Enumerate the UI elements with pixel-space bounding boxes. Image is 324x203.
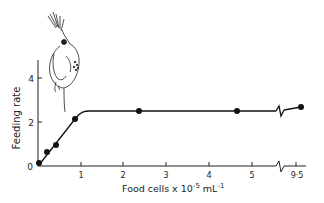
data-point	[72, 116, 78, 122]
data-point	[53, 142, 59, 148]
data-point	[234, 108, 240, 114]
x-tick-3: 3	[163, 171, 168, 180]
y-tick-0: 0	[27, 162, 33, 172]
x-tick-9-5: 9·5	[291, 171, 304, 180]
y-axis	[38, 60, 42, 166]
data-point	[44, 149, 50, 155]
x-tick-4: 4	[206, 171, 211, 180]
daphnia-illustration	[48, 12, 79, 112]
x-tick-5: 5	[249, 171, 254, 180]
data-point	[36, 160, 42, 166]
feeding-rate-chart: 0 2 4 1 2 3 4 5 9·5 Feeding rate Food ce…	[0, 0, 324, 203]
x-tick-2: 2	[120, 171, 125, 180]
y-axis-label: Feeding rate	[11, 87, 22, 150]
y-tick-4: 4	[28, 74, 34, 84]
y-tick-2: 2	[28, 118, 34, 128]
data-point	[136, 108, 142, 114]
x-tick-1: 1	[78, 171, 83, 180]
x-axis-label: Food cells x 10-5 mL-1	[122, 182, 224, 194]
data-point	[298, 104, 304, 110]
fitted-curve	[39, 106, 301, 165]
data-points	[36, 104, 304, 166]
